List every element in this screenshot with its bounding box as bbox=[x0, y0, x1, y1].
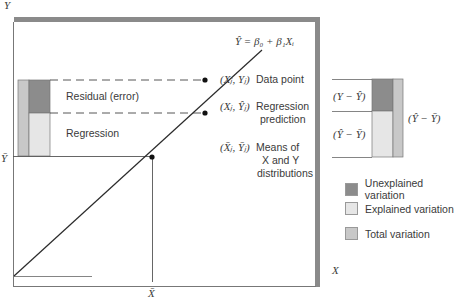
frame-right-shadow bbox=[315, 17, 320, 287]
regression-variation-diagram: Y X Ȳ X̄ Ŷ = β₀ + β₁Xᵢ Residual (error) … bbox=[0, 0, 464, 299]
data-point-label: Data point bbox=[256, 73, 304, 85]
data-point bbox=[202, 77, 207, 82]
regression-point-coords: (Xⱼ, Ŷⱼ) bbox=[220, 100, 250, 113]
left-total-bar bbox=[18, 80, 29, 156]
residual-label: Residual (error) bbox=[66, 90, 139, 102]
right-total-bar bbox=[393, 79, 403, 157]
legend-total-label: Total variation bbox=[365, 228, 430, 240]
means-label-1: Means of bbox=[256, 141, 299, 153]
means-label-2: X and Y bbox=[262, 154, 299, 166]
x-axis-label: X bbox=[331, 264, 340, 276]
total-swatch bbox=[345, 227, 358, 240]
left-regression-bar bbox=[29, 113, 50, 156]
unexplained-expr: (Y − Ŷ) bbox=[333, 90, 366, 103]
regression-equation: Ŷ = β₀ + β₁Xᵢ bbox=[235, 35, 294, 47]
regression-prediction-label-2: prediction bbox=[260, 113, 306, 125]
left-residual-bar bbox=[29, 80, 50, 113]
right-unexplained-bar bbox=[372, 79, 393, 111]
means-coords: (X̄ⱼ, Ȳⱼ) bbox=[220, 141, 250, 154]
explained-swatch bbox=[345, 202, 358, 215]
y-axis-label: Y bbox=[4, 0, 12, 11]
legend-unexplained-label: Unexplained variation bbox=[365, 177, 464, 201]
unexplained-swatch bbox=[345, 183, 358, 196]
means-label-3: distributions bbox=[257, 167, 313, 179]
right-explained-bar bbox=[372, 111, 393, 157]
y-mean-label: Ȳ bbox=[1, 152, 9, 164]
legend-explained: Explained variation bbox=[345, 202, 454, 215]
legend-total: Total variation bbox=[345, 227, 430, 240]
explained-expr: (Ŷ − Ȳ) bbox=[333, 128, 366, 141]
regression-prediction-label-1: Regression bbox=[256, 100, 309, 112]
x-mean-label: X̄ bbox=[147, 287, 156, 299]
frame-top-shadow bbox=[14, 17, 320, 22]
legend-unexplained: Unexplained variation bbox=[345, 177, 464, 201]
total-expr: (Ŷ − Ȳ) bbox=[408, 112, 441, 125]
data-point-coords: (Xⱼ, Yⱼ) bbox=[220, 73, 250, 86]
legend-explained-label: Explained variation bbox=[365, 203, 454, 215]
regression-point bbox=[202, 110, 207, 115]
mean-point bbox=[149, 154, 154, 159]
regression-label: Regression bbox=[66, 127, 119, 139]
